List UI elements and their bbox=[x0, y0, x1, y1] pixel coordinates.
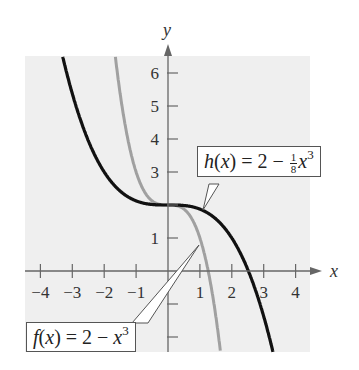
cubic-function-chart: −4−3−2−1123413456xy bbox=[0, 0, 359, 370]
x-tick-label: 2 bbox=[228, 283, 237, 302]
y-tick-label: 5 bbox=[151, 97, 160, 116]
h-exponent: 3 bbox=[307, 147, 314, 162]
x-axis-label: x bbox=[329, 261, 338, 281]
f-function-name: f bbox=[33, 326, 39, 348]
h-function-callout: h(x) = 2 − 18x3 bbox=[197, 146, 321, 177]
y-tick-label: 6 bbox=[151, 64, 160, 83]
h-x-term: x bbox=[298, 150, 307, 172]
x-tick-label: 3 bbox=[259, 283, 268, 302]
fraction-denominator: 8 bbox=[290, 164, 298, 175]
x-tick-label: −4 bbox=[31, 283, 50, 302]
x-tick-label: 4 bbox=[291, 283, 300, 302]
x-tick-label: −1 bbox=[127, 283, 145, 302]
f-x-term: x bbox=[113, 326, 122, 348]
h-variable: x bbox=[221, 150, 230, 172]
y-tick-label: 1 bbox=[151, 229, 160, 248]
x-tick-label: −2 bbox=[95, 283, 113, 302]
one-eighth-fraction: 18 bbox=[290, 152, 298, 175]
f-rhs-constant: ) = 2 − bbox=[54, 326, 113, 348]
f-exponent: 3 bbox=[122, 323, 129, 338]
h-rhs-constant: ) = 2 − bbox=[230, 150, 289, 172]
y-axis-label: y bbox=[161, 20, 171, 40]
f-function-callout: f(x) = 2 − x3 bbox=[26, 322, 136, 352]
h-function-name: h bbox=[204, 150, 214, 172]
x-tick-label: −3 bbox=[63, 283, 81, 302]
f-variable: x bbox=[45, 326, 54, 348]
x-tick-label: 1 bbox=[196, 283, 205, 302]
y-axis-arrow-icon bbox=[164, 44, 172, 56]
y-tick-label: 3 bbox=[151, 163, 160, 182]
x-axis-arrow-icon bbox=[310, 267, 322, 275]
y-tick-label: 4 bbox=[151, 130, 160, 149]
